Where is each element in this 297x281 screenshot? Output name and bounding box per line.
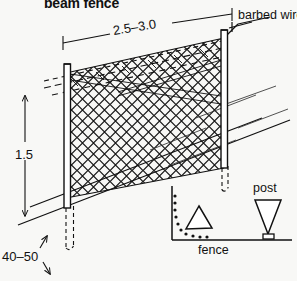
- figure-canvas: beam fence: [0, 0, 297, 281]
- fence-height-label: 1.5: [15, 148, 33, 161]
- left-post: [64, 64, 71, 208]
- left-post-footing: [66, 206, 74, 250]
- inset-post-label: post: [253, 182, 277, 195]
- post-base-block: [263, 234, 274, 239]
- right-post-footing: [222, 166, 228, 191]
- right-post: [221, 30, 228, 168]
- foundation-depth-label: 40–50: [2, 250, 38, 263]
- down-triangle-icon: [255, 200, 281, 234]
- inset-fence-label: fence: [198, 244, 229, 257]
- barbed-wire-label: barbed wire: [238, 9, 297, 22]
- fence-drawing: [0, 0, 297, 281]
- dimension-foundation-depth: [40, 236, 50, 274]
- up-triangle-icon: [186, 206, 212, 229]
